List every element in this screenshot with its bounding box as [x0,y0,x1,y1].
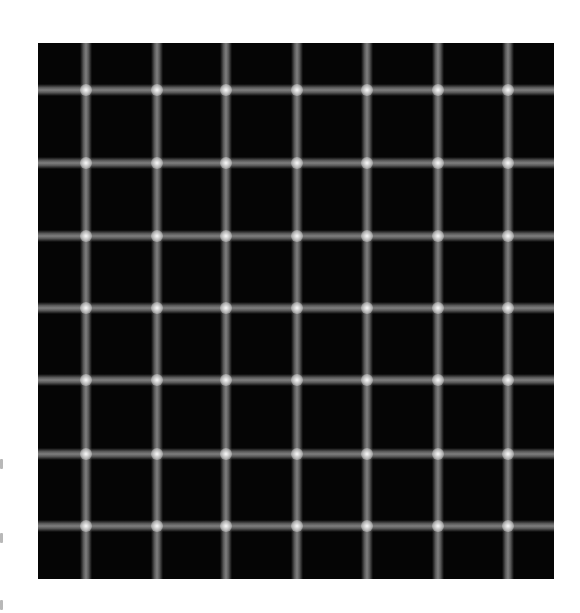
intersection-dot [151,157,163,169]
intersection-dot [220,230,232,242]
intersection-dot [151,84,163,96]
edge-mark [0,533,3,543]
intersection-dot [291,230,303,242]
intersection-dot [361,302,373,314]
intersection-dot [151,520,163,532]
intersection-dot [432,374,444,386]
intersection-dot [151,302,163,314]
intersection-dot [502,520,514,532]
intersection-dot [220,157,232,169]
intersection-dot [291,157,303,169]
intersection-dot [502,448,514,460]
intersection-dot [432,302,444,314]
intersection-dot [502,84,514,96]
intersection-dot [291,374,303,386]
intersection-dot [361,230,373,242]
intersection-dot [432,230,444,242]
intersection-dot [220,84,232,96]
intersection-dot [432,157,444,169]
edge-mark [0,459,3,469]
intersection-dot [80,374,92,386]
intersection-dot [291,302,303,314]
intersection-dot [502,374,514,386]
intersection-dot [220,302,232,314]
intersection-dot [432,84,444,96]
intersection-dot [80,448,92,460]
edge-mark [0,600,3,610]
intersection-dot [80,520,92,532]
intersection-dot [361,374,373,386]
intersection-dot [361,520,373,532]
intersection-dot [151,230,163,242]
intersection-dot [151,448,163,460]
intersection-dot [502,230,514,242]
intersection-dot [291,520,303,532]
intersection-dot [80,84,92,96]
intersection-dot [502,302,514,314]
intersection-dot [220,374,232,386]
intersection-dot [80,157,92,169]
intersection-dot [291,448,303,460]
intersection-dot [361,448,373,460]
intersection-dot [220,448,232,460]
intersection-dot [291,84,303,96]
intersection-dot [220,520,232,532]
intersection-dot [502,157,514,169]
intersection-dot [80,230,92,242]
intersection-dot [361,84,373,96]
intersection-dot [432,448,444,460]
intersection-dot [432,520,444,532]
intersection-dot [361,157,373,169]
intersection-dot [151,374,163,386]
scintillating-grid [38,43,554,579]
intersection-dot [80,302,92,314]
